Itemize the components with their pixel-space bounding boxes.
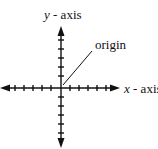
axes-diagram (0, 0, 158, 149)
x-axis-right-arrow-icon (110, 85, 120, 92)
x-axis-label-text: - axis (130, 81, 158, 96)
x-axis-left-arrow-icon (0, 85, 10, 92)
y-axis-down-arrow-icon (58, 138, 65, 148)
origin-pointer-line (63, 51, 92, 85)
y-axis-label: y - axis (44, 8, 82, 21)
x-axis-label: x - axis (124, 82, 158, 95)
y-axis-label-text: - axis (50, 7, 82, 22)
y-axis-up-arrow-icon (58, 26, 65, 36)
origin-label: origin (95, 38, 126, 51)
